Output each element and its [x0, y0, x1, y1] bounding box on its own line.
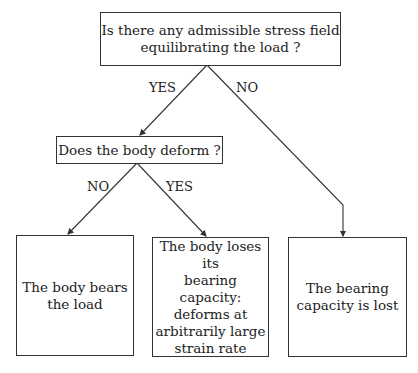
edge-q1-no-arrow: [207, 65, 343, 236]
edge-q2-no-arrow: [68, 163, 137, 234]
question-box-stress-field: Is there any admissible stress field equ…: [100, 12, 341, 66]
edge-label-no: NO: [236, 80, 258, 95]
edge-q2-yes-arrow: [137, 163, 206, 236]
result-box-bears-load: The body bears the load: [16, 235, 134, 356]
edge-label-yes: YES: [166, 179, 193, 194]
result-text: The body loses its bearing capacity: def…: [153, 238, 268, 357]
result-text: The body bears the load: [22, 279, 127, 313]
question-box-deform: Does the body deform ?: [56, 136, 223, 164]
result-box-capacity-lost: The bearing capacity is lost: [288, 237, 407, 357]
edge-label-yes: YES: [149, 80, 176, 95]
result-text: The bearing capacity is lost: [297, 280, 399, 314]
flowchart: Is there any admissible stress field equ…: [0, 0, 418, 373]
result-box-loses-capacity: The body loses its bearing capacity: def…: [152, 237, 269, 357]
question-text: Is there any admissible stress field equ…: [101, 22, 339, 56]
question-text: Does the body deform ?: [58, 142, 220, 159]
edge-label-no: NO: [87, 179, 109, 194]
edge-q1-yes-arrow: [140, 65, 207, 135]
